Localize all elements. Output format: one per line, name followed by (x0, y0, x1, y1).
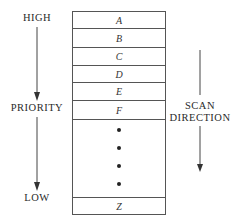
queue-entry-label: B (116, 33, 122, 44)
ellipsis-dot (117, 128, 121, 132)
queue-entry-label: E (116, 86, 122, 97)
queue-entry-label: Z (116, 201, 122, 212)
ellipsis (73, 120, 165, 197)
priority-arrowhead-lower (34, 182, 40, 191)
scan-label-line1: SCAN (170, 100, 230, 111)
scan-arrowhead (197, 164, 203, 172)
priority-queue: A B C D E F Z (72, 11, 166, 215)
queue-entry-label: A (116, 15, 122, 26)
queue-entry: A (73, 12, 165, 29)
priority-label: PRIORITY (4, 102, 70, 113)
queue-entry: F (73, 101, 165, 120)
queue-entry-label: C (116, 51, 123, 62)
queue-entry: C (73, 48, 165, 66)
queue-entry: E (73, 83, 165, 101)
priority-high-label: HIGH (17, 12, 57, 23)
queue-entry: D (73, 66, 165, 83)
queue-entry-last: Z (73, 197, 165, 215)
queue-entry-label: D (115, 69, 122, 80)
queue-entry: B (73, 29, 165, 48)
queue-entry-label: F (116, 105, 122, 116)
priority-low-label: LOW (17, 192, 57, 203)
scan-label-line2: DIRECTION (165, 112, 235, 123)
ellipsis-dot (117, 164, 121, 168)
ellipsis-dot (117, 182, 121, 186)
priority-arrowhead-upper (34, 92, 40, 101)
ellipsis-dot (117, 146, 121, 150)
